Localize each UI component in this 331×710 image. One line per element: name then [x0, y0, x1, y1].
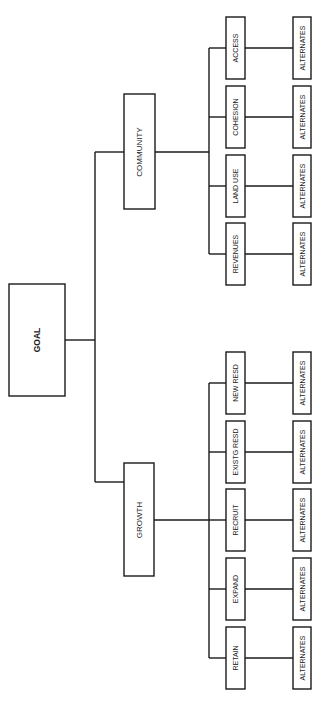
growth-node: GROWTH	[124, 463, 154, 576]
criterion-label-existg-resd: EXISTG RESD	[232, 428, 239, 475]
criterion-recruit: RECRUITALTERNATES	[209, 489, 311, 551]
alternates-label-cohesion: ALTERNATES	[299, 94, 306, 139]
alternates-label-recruit: ALTERNATES	[299, 497, 306, 542]
alternates-label-land-use: ALTERNATES	[299, 163, 306, 208]
alternates-label-revenues: ALTERNATES	[299, 231, 306, 276]
community-node: COMMUNITY	[124, 94, 155, 209]
criterion-revenues: REVENUESALTERNATES	[209, 223, 311, 285]
alternates-label-expand: ALTERNATES	[299, 566, 306, 611]
alternates-label-existg-resd: ALTERNATES	[299, 429, 306, 474]
criterion-label-new-resd: NEW RESD	[232, 364, 239, 402]
criterion-cohesion: COHESIONALTERNATES	[209, 86, 311, 148]
criterion-retain: RETAINALTERNATES	[209, 627, 311, 689]
growth-label: GROWTH	[135, 502, 144, 539]
hierarchy-diagram: GOAL COMMUNITY GROWTH ACCESSALTERNATESCO…	[0, 0, 331, 710]
criterion-access: ACCESSALTERNATES	[209, 17, 311, 79]
criterion-new-resd: NEW RESDALTERNATES	[209, 352, 311, 414]
goal-node: GOAL	[9, 284, 65, 396]
criterion-expand: EXPANDALTERNATES	[209, 558, 311, 620]
criterion-label-recruit: RECRUIT	[232, 504, 239, 536]
community-label: COMMUNITY	[135, 127, 144, 177]
alternates-label-new-resd: ALTERNATES	[299, 360, 306, 405]
criterion-existg-resd: EXISTG RESDALTERNATES	[209, 421, 311, 483]
criterion-land-use: LAND USEALTERNATES	[209, 155, 311, 217]
criteria-nodes: ACCESSALTERNATESCOHESIONALTERNATESLAND U…	[209, 17, 311, 689]
criterion-label-cohesion: COHESION	[232, 98, 239, 135]
goal-label: GOAL	[32, 328, 42, 353]
criterion-label-land-use: LAND USE	[232, 168, 239, 203]
criterion-label-retain: RETAIN	[232, 645, 239, 670]
criterion-label-access: ACCESS	[232, 33, 239, 62]
alternates-label-access: ALTERNATES	[299, 25, 306, 70]
alternates-label-retain: ALTERNATES	[299, 635, 306, 680]
criterion-label-expand: EXPAND	[232, 575, 239, 603]
criterion-label-revenues: REVENUES	[232, 234, 239, 273]
